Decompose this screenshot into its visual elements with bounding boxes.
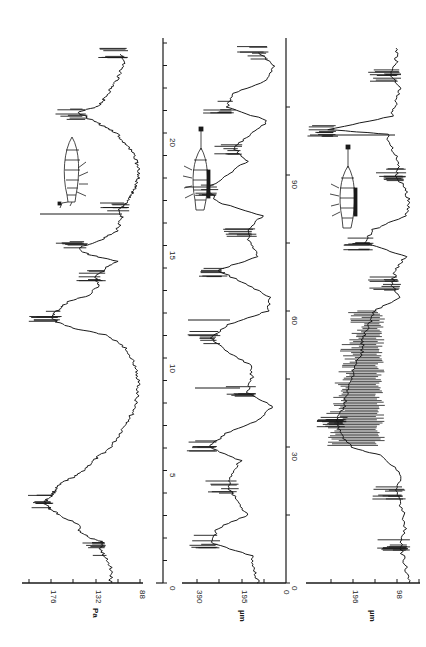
panel-top-y-label: Pa [91, 608, 100, 618]
panel-top-y-tick-label: 88 [138, 590, 147, 599]
panel-bottom-bursts [308, 70, 411, 550]
panel-top-x-tick-label: 20 [168, 138, 177, 147]
panel-top: 176 132 88 Pa 0 5 10 15 20 [22, 38, 177, 618]
rotated-figure: 176 132 88 Pa 0 5 10 15 20 [0, 0, 426, 647]
insect-displacement-sensor-icon [183, 127, 210, 210]
panel-top-x-tick-label: 5 [168, 473, 177, 478]
panel-middle-y-tick-label: 0 [282, 590, 291, 595]
panel-middle-x-tick-label: 60 [290, 316, 299, 325]
panel-top-x-tick-label: 0 [168, 586, 177, 591]
panel-bottom-y-tick-label: 196 [351, 590, 360, 604]
panel-middle-y-label: µm [238, 610, 247, 622]
panel-middle-bursts [185, 47, 268, 548]
panel-top-y-tick-label: 176 [49, 590, 58, 604]
panel-bottom-y-tick-label: 98 [395, 590, 404, 599]
panel-middle-x-tick-label: 30 [290, 452, 299, 461]
panel-top-x-ticks [163, 43, 167, 583]
panel-top-y-tick-label: 132 [94, 590, 103, 604]
panel-bottom: 196 98 µm [306, 48, 420, 622]
panel-middle-trace [208, 53, 275, 583]
panel-middle-x-tick-label: 90 [290, 180, 299, 189]
panel-bottom-y-label: µm [368, 610, 377, 622]
panel-middle-y-tick-label: 195 [240, 590, 249, 604]
insect-pressure-sensor-icon [58, 137, 88, 208]
chart-canvas: 176 132 88 Pa 0 5 10 15 20 [0, 0, 426, 647]
insect-displacement-sensor-icon [330, 145, 357, 228]
panel-top-x-tick-label: 10 [168, 364, 177, 373]
panel-top-bursts [28, 48, 130, 555]
panel-middle: 390 195 0 µm 0 30 60 90 [182, 38, 299, 622]
panel-middle-x-tick-label: 0 [290, 586, 299, 591]
panel-top-trace [44, 54, 140, 583]
panel-top-x-tick-label: 15 [168, 251, 177, 260]
panel-middle-y-tick-label: 390 [195, 590, 204, 604]
